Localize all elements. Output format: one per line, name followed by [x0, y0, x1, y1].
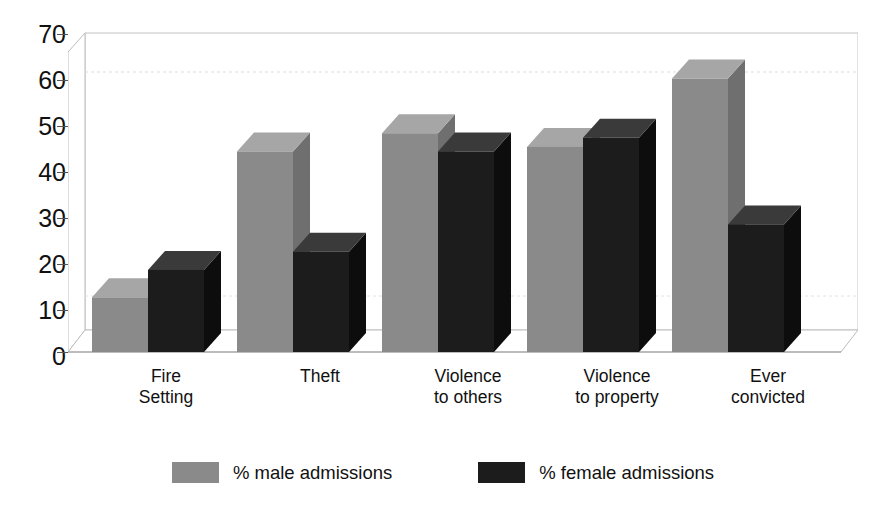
left-wall [68, 33, 85, 352]
y-axis: 70 60 50 40 30 20 10 0 [14, 18, 66, 366]
category-label-violence-to-others: Violence to others [388, 366, 548, 408]
category-label-theft: Theft [240, 366, 400, 387]
y-tick-mark-10 [57, 310, 68, 311]
legend-label-female: % female admissions [539, 462, 714, 483]
y-tick-mark-30 [57, 218, 68, 219]
y-tick-mark-70 [57, 34, 68, 35]
category-label-line-1: Theft [240, 366, 400, 387]
category-label-line-1: Fire [86, 366, 246, 387]
y-tick-mark-20 [57, 264, 68, 265]
legend-entry-male: % male admissions [172, 462, 392, 483]
y-tick-label-0: 0 [14, 344, 66, 369]
bar-chart: 70 60 50 40 30 20 10 0 [0, 0, 886, 510]
y-tick-mark-50 [57, 126, 68, 127]
chart-legend: % male admissions % female admissions [0, 452, 886, 492]
category-label-line-1: Violence [532, 366, 702, 387]
legend-swatch-male-icon [172, 462, 219, 483]
category-label-line-1: Ever [688, 366, 848, 387]
plot-frame-svg [68, 30, 858, 370]
x-axis-category-labels: Fire Setting Theft Violence to others Vi… [68, 366, 858, 426]
category-label-violence-to-property: Violence to property [532, 366, 702, 408]
legend-entry-female: % female admissions [478, 462, 714, 483]
category-label-line-2: to others [388, 387, 548, 408]
category-label-line-2: Setting [86, 387, 246, 408]
category-label-line-2: to property [532, 387, 702, 408]
floor-plane [68, 330, 858, 352]
y-tick-mark-40 [57, 172, 68, 173]
category-label-fire-setting: Fire Setting [86, 366, 246, 408]
y-tick-mark-60 [57, 80, 68, 81]
back-wall [85, 33, 858, 330]
y-tick-mark-0 [57, 352, 68, 353]
category-label-ever-convicted: Ever convicted [688, 366, 848, 408]
legend-swatch-female-icon [478, 462, 525, 483]
category-label-line-1: Violence [388, 366, 548, 387]
legend-label-male: % male admissions [233, 462, 392, 483]
plot-area-frame [68, 30, 843, 360]
category-label-line-2: convicted [688, 387, 848, 408]
